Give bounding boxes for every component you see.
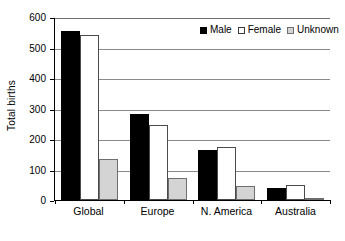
y-axis-tick-labels: 0100200300400500600 — [20, 11, 50, 201]
bar-male — [61, 31, 80, 200]
legend-item-female: Female — [238, 25, 281, 35]
y-axis-tick-label: 200 — [29, 135, 46, 145]
legend-item-unknown: Unknown — [287, 25, 339, 35]
y-axis-tick-label: 600 — [29, 13, 46, 23]
bar-female — [80, 35, 99, 200]
x-axis-tick-mark — [55, 200, 56, 204]
y-axis-tick-label: 100 — [29, 166, 46, 176]
bar-unknown — [236, 186, 255, 200]
x-axis-tick-labels: GlobalEuropeN. AmericaAustralia — [54, 205, 330, 225]
x-axis-tick-label: Global — [54, 205, 123, 225]
bar-female — [286, 185, 305, 200]
bar-male — [198, 150, 217, 200]
legend-label: Unknown — [297, 25, 339, 35]
bar-group — [193, 18, 262, 200]
bar-male — [130, 114, 149, 200]
x-axis-tick-mark — [124, 200, 125, 204]
legend-label: Female — [248, 25, 281, 35]
y-axis-title: Total births — [0, 0, 22, 210]
y-axis-tick-label: 0 — [40, 196, 46, 206]
bar-unknown — [99, 159, 118, 200]
bar-group — [124, 18, 193, 200]
bar-group — [55, 18, 124, 200]
bar-unknown — [305, 198, 324, 200]
bar-female — [217, 147, 236, 200]
bars-layer — [55, 18, 330, 200]
bar-group — [261, 18, 330, 200]
bar-female — [149, 125, 168, 200]
chart-legend: MaleFemaleUnknown — [198, 24, 341, 36]
x-axis-tick-mark — [261, 200, 262, 204]
x-axis-tick-label: N. America — [192, 205, 261, 225]
legend-label: Male — [210, 25, 232, 35]
x-axis-tick-mark — [330, 200, 331, 204]
bar-chart: Total births 0100200300400500600 GlobalE… — [0, 0, 345, 241]
y-axis-title-label: Total births — [6, 80, 17, 131]
x-axis-tick-label: Europe — [123, 205, 192, 225]
legend-swatch-male-icon — [200, 27, 207, 34]
legend-item-male: Male — [200, 25, 232, 35]
legend-swatch-unknown-icon — [287, 27, 294, 34]
bar-unknown — [168, 178, 187, 200]
y-axis-tick-label: 500 — [29, 44, 46, 54]
y-axis-tick-mark — [50, 201, 54, 202]
x-axis-tick-label: Australia — [261, 205, 330, 225]
y-axis-tick-label: 300 — [29, 105, 46, 115]
bar-male — [267, 188, 286, 200]
y-axis-tick-label: 400 — [29, 74, 46, 84]
legend-swatch-female-icon — [238, 27, 245, 34]
plot-area — [54, 18, 330, 201]
x-axis-tick-mark — [193, 200, 194, 204]
